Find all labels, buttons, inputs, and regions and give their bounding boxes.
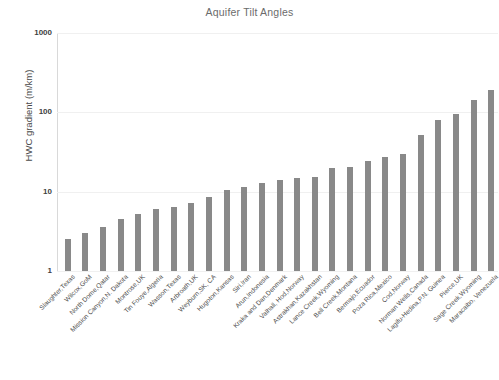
bar: [329, 168, 335, 271]
bar: [471, 100, 477, 271]
y-axis-tick: 10: [4, 187, 52, 196]
bar: [312, 177, 318, 271]
bar: [82, 233, 88, 271]
gridline: [57, 271, 498, 272]
y-axis-tick: 1000: [4, 28, 52, 37]
bar: [224, 190, 230, 271]
bar: [347, 167, 353, 271]
bar: [277, 180, 283, 271]
x-axis-tick-labels: Slaughter,TexasWilcox,GoMNorth Dome,Qata…: [57, 273, 498, 380]
bar: [100, 227, 106, 271]
bar: [188, 203, 194, 271]
y-axis-line: [57, 33, 58, 271]
y-axis-tick-labels: 1000100101: [0, 33, 52, 271]
plot-area: [57, 33, 498, 271]
bar: [382, 157, 388, 271]
chart-title: Aquifer Tilt Angles: [0, 6, 499, 18]
bar: [65, 239, 71, 271]
y-axis-tick: 1: [4, 266, 52, 275]
chart-container: Aquifer Tilt Angles HWC gradient (m/km) …: [0, 0, 499, 380]
bar: [488, 90, 494, 271]
bar: [118, 219, 124, 271]
bar: [206, 197, 212, 271]
bar: [135, 214, 141, 271]
bar: [418, 135, 424, 271]
bar: [453, 114, 459, 271]
bar: [241, 187, 247, 271]
bar: [400, 154, 406, 271]
bar: [294, 178, 300, 271]
y-axis-tick: 100: [4, 107, 52, 116]
gridline: [57, 112, 498, 113]
bar: [365, 161, 371, 271]
bar: [259, 183, 265, 271]
bar: [171, 207, 177, 271]
bar: [153, 209, 159, 271]
gridline: [57, 33, 498, 34]
bar: [435, 120, 441, 271]
